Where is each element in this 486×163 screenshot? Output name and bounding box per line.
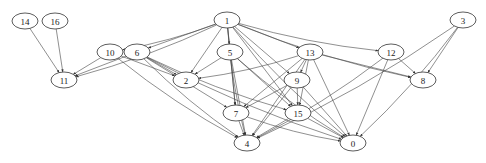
node-label: 11 bbox=[60, 76, 69, 86]
edge-5-to-4 bbox=[232, 60, 246, 135]
edge-path bbox=[73, 58, 101, 75]
edge-path bbox=[233, 27, 293, 106]
node-label: 12 bbox=[387, 48, 396, 58]
edge-13-to-2 bbox=[199, 56, 299, 79]
node-10: 10 bbox=[97, 44, 123, 60]
node-12: 12 bbox=[378, 44, 404, 60]
node-16: 16 bbox=[42, 13, 68, 29]
edge-path bbox=[308, 118, 344, 137]
node-8: 8 bbox=[410, 72, 436, 88]
node-label: 5 bbox=[228, 48, 233, 58]
edge-12-to-0 bbox=[356, 60, 388, 136]
edge-path bbox=[144, 59, 238, 137]
edge-12-to-8 bbox=[399, 59, 416, 74]
edge-14-to-11 bbox=[30, 28, 59, 72]
node-0: 0 bbox=[340, 135, 366, 151]
edge-path bbox=[75, 56, 126, 76]
node-9: 9 bbox=[284, 72, 310, 88]
edge-10-to-11 bbox=[73, 58, 101, 75]
node-label: 9 bbox=[295, 76, 300, 86]
edge-16-to-11 bbox=[56, 29, 63, 72]
edge-path bbox=[360, 27, 457, 136]
node-label: 1 bbox=[225, 16, 230, 26]
node-label: 8 bbox=[421, 76, 426, 86]
node-11: 11 bbox=[51, 72, 77, 88]
edge-15-to-4 bbox=[256, 119, 288, 138]
edge-path bbox=[246, 85, 287, 107]
edge-6-to-11 bbox=[75, 56, 126, 76]
edge-layer bbox=[30, 23, 458, 141]
edge-path bbox=[30, 28, 59, 72]
node-label: 2 bbox=[184, 76, 189, 86]
node-14: 14 bbox=[12, 13, 38, 29]
directed-graph: 141613106513121129871540 bbox=[0, 0, 486, 163]
node-label: 14 bbox=[21, 17, 31, 27]
edge-path bbox=[314, 60, 350, 136]
edge-5-to-0 bbox=[237, 59, 343, 138]
node-1: 1 bbox=[214, 12, 240, 28]
node-label: 13 bbox=[306, 48, 316, 58]
node-3: 3 bbox=[450, 12, 476, 28]
edge-path bbox=[297, 88, 298, 105]
node-label: 3 bbox=[461, 16, 466, 26]
edge-9-to-7 bbox=[246, 85, 287, 107]
edge-5-to-2 bbox=[195, 58, 221, 74]
edge-10-to-4 bbox=[118, 58, 237, 137]
node-label: 10 bbox=[106, 48, 116, 58]
node-label: 16 bbox=[51, 17, 61, 27]
edge-path bbox=[237, 59, 343, 138]
node-label: 6 bbox=[135, 48, 140, 58]
edge-path bbox=[148, 24, 215, 48]
node-13: 13 bbox=[297, 44, 323, 60]
edge-3-to-0 bbox=[360, 27, 457, 136]
edge-path bbox=[356, 60, 388, 136]
node-5: 5 bbox=[217, 44, 243, 60]
edge-path bbox=[399, 59, 416, 74]
node-15: 15 bbox=[285, 105, 311, 121]
edge-1-to-15 bbox=[233, 27, 293, 106]
node-label: 7 bbox=[234, 109, 239, 119]
edge-path bbox=[118, 58, 237, 137]
edge-15-to-0 bbox=[308, 118, 344, 137]
edge-6-to-4 bbox=[144, 59, 238, 137]
node-2: 2 bbox=[173, 72, 199, 88]
edge-9-to-15 bbox=[297, 88, 298, 105]
edge-path bbox=[56, 29, 63, 72]
edge-1-to-6 bbox=[148, 24, 215, 48]
node-4: 4 bbox=[234, 135, 260, 151]
edge-13-to-0 bbox=[314, 60, 350, 136]
node-label: 4 bbox=[245, 139, 250, 149]
node-7: 7 bbox=[223, 105, 249, 121]
edge-path bbox=[195, 58, 221, 74]
node-label: 15 bbox=[294, 109, 304, 119]
node-label: 0 bbox=[351, 139, 356, 149]
edge-path bbox=[232, 60, 246, 135]
edge-path bbox=[199, 56, 299, 79]
node-6: 6 bbox=[124, 44, 150, 60]
edge-path bbox=[256, 119, 288, 138]
